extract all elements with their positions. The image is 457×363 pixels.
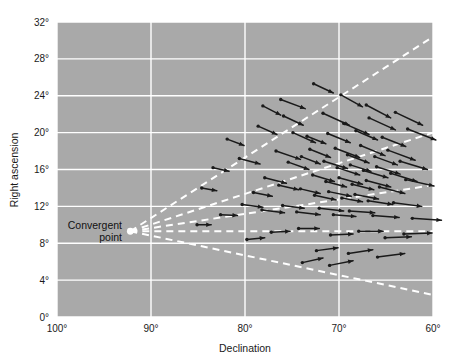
star-marker xyxy=(375,165,378,168)
star-marker xyxy=(362,169,365,172)
star-marker xyxy=(335,166,338,169)
star-marker xyxy=(324,180,327,183)
star-marker xyxy=(346,153,349,156)
star-marker xyxy=(327,190,330,193)
star-marker xyxy=(398,160,401,163)
star-marker xyxy=(404,178,407,181)
star-marker xyxy=(318,207,321,210)
y-axis-title: Right ascension xyxy=(8,132,20,207)
convergent-point-label-line1: Convergent xyxy=(68,219,122,231)
star-marker xyxy=(263,176,266,179)
star-marker xyxy=(339,93,342,96)
convergent-point-dot xyxy=(127,228,134,235)
star-marker xyxy=(406,127,409,130)
star-marker xyxy=(252,191,255,194)
y-tick-label: 12° xyxy=(34,201,49,212)
star-marker xyxy=(365,103,368,106)
star-marker xyxy=(342,122,345,125)
star-marker xyxy=(366,199,369,202)
star-marker xyxy=(279,98,282,101)
star-marker xyxy=(211,166,214,169)
star-marker xyxy=(392,201,395,204)
star-marker xyxy=(348,209,351,212)
y-tick-label: 16° xyxy=(34,164,49,175)
star-marker xyxy=(328,264,331,267)
star-marker xyxy=(312,82,315,85)
chart-container: 100°90°80°70°60° 0°4°8°12°16°20°24°28°32… xyxy=(0,0,457,363)
star-marker xyxy=(365,179,368,182)
star-marker xyxy=(200,186,203,189)
convergent-point-label-line2: point xyxy=(99,231,122,243)
y-tick-label: 8° xyxy=(39,238,49,249)
star-marker xyxy=(274,149,277,152)
star-marker xyxy=(334,147,337,150)
star-marker xyxy=(291,131,294,134)
star-marker xyxy=(282,114,285,117)
proper-motion-scatter-chart: 100°90°80°70°60° 0°4°8°12°16°20°24°28°32… xyxy=(0,0,457,363)
star-marker xyxy=(305,135,308,138)
star-marker xyxy=(261,104,264,107)
x-tick-label: 100° xyxy=(47,323,68,334)
star-marker xyxy=(225,137,228,140)
star-marker xyxy=(287,160,290,163)
star-marker xyxy=(256,124,259,127)
star-marker xyxy=(315,249,318,252)
star-marker xyxy=(322,160,325,163)
star-marker xyxy=(300,155,303,158)
star-marker xyxy=(353,193,356,196)
x-tick-label: 60° xyxy=(425,323,440,334)
star-marker xyxy=(389,171,392,174)
x-axis-title: Declination xyxy=(219,342,271,354)
star-marker xyxy=(308,148,311,151)
star-marker xyxy=(381,136,384,139)
star-marker xyxy=(359,144,362,147)
y-tick-label: 4° xyxy=(39,275,49,286)
star-marker xyxy=(383,236,386,239)
star-marker xyxy=(240,203,243,206)
star-marker xyxy=(378,185,381,188)
star-marker xyxy=(301,261,304,264)
star-marker xyxy=(337,176,340,179)
star-marker xyxy=(297,227,300,230)
star-marker xyxy=(270,230,273,233)
y-tick-label: 0° xyxy=(39,312,49,323)
star-marker xyxy=(326,132,329,135)
x-tick-label: 80° xyxy=(237,323,252,334)
star-marker xyxy=(281,204,284,207)
star-marker xyxy=(376,255,379,258)
star-marker xyxy=(411,217,414,220)
star-marker xyxy=(354,129,357,132)
star-marker xyxy=(238,157,241,160)
star-marker xyxy=(367,116,370,119)
star-marker xyxy=(195,223,198,226)
y-tick-label: 24° xyxy=(34,90,49,101)
y-tick-label: 32° xyxy=(34,17,49,28)
star-marker xyxy=(373,155,376,158)
star-marker xyxy=(332,213,335,216)
star-marker xyxy=(245,238,248,241)
star-marker xyxy=(219,213,222,216)
x-tick-label: 90° xyxy=(143,323,158,334)
star-marker xyxy=(277,183,280,186)
star-marker xyxy=(357,230,360,233)
star-marker xyxy=(349,163,352,166)
star-marker xyxy=(347,252,350,255)
star-marker xyxy=(295,210,298,213)
y-tick-label: 28° xyxy=(34,53,49,64)
star-marker xyxy=(260,208,263,211)
y-tick-label: 20° xyxy=(34,127,49,138)
star-marker xyxy=(402,232,405,235)
x-tick-label: 70° xyxy=(331,323,346,334)
star-marker xyxy=(313,194,316,197)
star-marker xyxy=(340,196,343,199)
star-marker xyxy=(386,148,389,151)
star-marker xyxy=(311,173,314,176)
star-marker xyxy=(321,112,324,115)
star-marker xyxy=(371,214,374,217)
star-marker xyxy=(329,233,332,236)
star-marker xyxy=(394,111,397,114)
star-marker xyxy=(350,183,353,186)
convergent-point-marker xyxy=(127,228,134,235)
